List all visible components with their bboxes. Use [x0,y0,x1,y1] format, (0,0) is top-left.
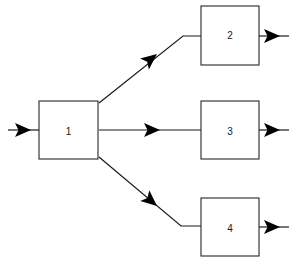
diagram-svg: 1 2 3 4 [0,0,296,269]
branch-to-block-4-arrowhead-icon [140,190,161,211]
block-4[interactable]: 4 [201,198,259,256]
branch-to-block-2-arrowhead-icon [140,49,161,70]
block-4-label: 4 [227,223,233,234]
block-3[interactable]: 3 [201,101,259,159]
block-1-label: 1 [66,126,72,137]
block-diagram-canvas: 1 2 3 4 [0,0,296,269]
branch-to-block-2 [99,36,201,103]
branch-to-block-2-line [99,36,201,103]
branch-to-block-3 [99,123,201,137]
branch-to-block-4-line [99,157,201,226]
output-arrow-block-3 [259,123,289,137]
branch-to-block-4 [99,157,201,226]
output-arrow-block-4 [259,220,289,234]
block-2-label: 2 [227,30,233,41]
block-2[interactable]: 2 [201,6,259,65]
output-arrow-block-2 [259,29,289,43]
block-1[interactable]: 1 [39,101,98,159]
input-arrow [8,123,39,137]
block-3-label: 3 [227,126,233,137]
